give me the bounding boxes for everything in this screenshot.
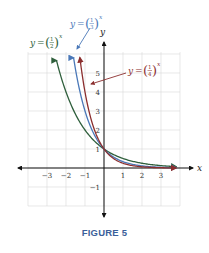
third-label-pointer: [77, 28, 90, 49]
exponential-decay-chart: x y −3−2−1123 54321−1 y = ( 1 2 ) x y = …: [0, 0, 209, 253]
svg-text:=: =: [135, 66, 143, 76]
y-tick-label: 5: [96, 70, 100, 78]
x-tick-label: −1: [80, 172, 90, 180]
x-tick-label: 1: [121, 172, 125, 180]
svg-text:x: x: [157, 60, 161, 67]
x-tick-label: 3: [159, 172, 163, 180]
label-third: y = ( 1 3 ) x: [69, 13, 103, 31]
svg-text:y: y: [29, 38, 36, 48]
y-tick-label: 1: [96, 146, 100, 154]
svg-text:1: 1: [148, 64, 152, 70]
y-tick-label: 4: [96, 89, 101, 97]
x-tick-label: −3: [42, 172, 52, 180]
label-half: y = ( 1 2 ) x: [29, 32, 63, 50]
y-axis-label: y: [99, 27, 106, 37]
svg-text:y: y: [69, 19, 76, 29]
y-tick-label: −1: [90, 184, 100, 192]
svg-text:2: 2: [50, 43, 54, 49]
x-tick-labels: −3−2−1123: [42, 172, 163, 180]
figure-caption: FIGURE 5: [0, 227, 209, 238]
svg-text:=: =: [37, 38, 45, 48]
x-axis-label: x: [197, 163, 202, 173]
curves: [57, 58, 177, 168]
svg-text:y: y: [127, 66, 134, 76]
y-tick-label: 3: [96, 108, 100, 116]
svg-text:=: =: [77, 19, 85, 29]
svg-text:x: x: [59, 32, 63, 39]
x-tick-label: −2: [61, 172, 71, 180]
svg-text:1: 1: [50, 36, 54, 42]
svg-text:1: 1: [90, 17, 94, 23]
label-quarter: y = ( 1 4 ) x: [127, 60, 161, 78]
svg-text:x: x: [99, 13, 103, 20]
x-tick-label: 2: [140, 172, 144, 180]
